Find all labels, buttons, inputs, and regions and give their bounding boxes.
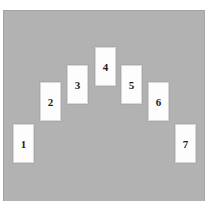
card-label: 5 xyxy=(122,79,141,90)
card-label: 6 xyxy=(149,96,168,107)
scene-canvas: 1234567 xyxy=(0,0,210,201)
card-label: 1 xyxy=(14,138,33,149)
card-label: 4 xyxy=(96,61,115,72)
card-1[interactable]: 1 xyxy=(13,124,34,163)
card-3[interactable]: 3 xyxy=(67,65,88,104)
card-label: 2 xyxy=(41,96,60,107)
card-board-panel xyxy=(3,10,205,201)
card-6[interactable]: 6 xyxy=(148,82,169,121)
card-2[interactable]: 2 xyxy=(40,82,61,121)
card-label: 7 xyxy=(176,138,195,149)
card-label: 3 xyxy=(68,79,87,90)
card-5[interactable]: 5 xyxy=(121,65,142,104)
card-7[interactable]: 7 xyxy=(175,124,196,163)
card-4[interactable]: 4 xyxy=(95,47,116,86)
